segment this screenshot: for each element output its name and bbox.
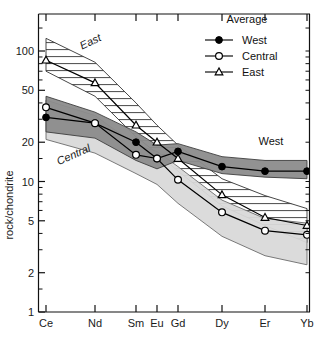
x-tick-label: Gd bbox=[171, 317, 186, 329]
x-tick-label: Nd bbox=[88, 317, 102, 329]
marker-west bbox=[219, 163, 226, 170]
marker-west bbox=[133, 139, 140, 146]
marker-central bbox=[43, 104, 50, 111]
legend-label-west: West bbox=[242, 34, 267, 46]
y-tick-label: 5 bbox=[28, 215, 34, 227]
x-tick-label: Yb bbox=[300, 317, 313, 329]
legend-label-east: East bbox=[242, 66, 264, 78]
marker-central bbox=[154, 155, 161, 162]
y-tick-label: 2 bbox=[28, 267, 34, 279]
y-tick-label: 10 bbox=[22, 176, 34, 188]
legend-label-central: Central bbox=[242, 50, 277, 62]
x-tick-label: Ce bbox=[39, 317, 53, 329]
marker-central bbox=[175, 176, 182, 183]
marker-west bbox=[262, 168, 269, 175]
x-tick-label: Eu bbox=[150, 317, 163, 329]
y-tick-label: 50 bbox=[22, 84, 34, 96]
chart-figure: EastCentralWest 125102050100 CeNdSmEuGdD… bbox=[0, 0, 323, 339]
legend-marker-west bbox=[216, 37, 223, 44]
y-axis-title: rock/chondrite bbox=[3, 170, 15, 239]
y-tick-label: 20 bbox=[22, 136, 34, 148]
x-tick-label: Er bbox=[260, 317, 271, 329]
legend-title: Average bbox=[227, 13, 268, 25]
legend-marker-central bbox=[216, 53, 223, 60]
marker-west bbox=[43, 114, 50, 121]
ree-spider-diagram: EastCentralWest 125102050100 CeNdSmEuGdD… bbox=[0, 0, 323, 339]
field-label-west: West bbox=[259, 135, 284, 147]
marker-central bbox=[262, 227, 269, 234]
y-tick-label: 100 bbox=[16, 45, 34, 57]
x-tick-label: Sm bbox=[128, 317, 145, 329]
marker-central bbox=[219, 209, 226, 216]
marker-central bbox=[133, 151, 140, 158]
x-tick-label: Dy bbox=[215, 317, 229, 329]
y-tick-label: 1 bbox=[28, 306, 34, 318]
marker-central bbox=[92, 120, 99, 127]
